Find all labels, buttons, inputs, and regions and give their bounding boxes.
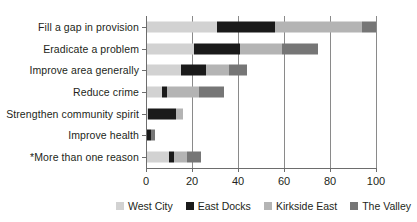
x-axis-label: 0 (143, 175, 149, 187)
plot-area: Fill a gap in provisionEradicate a probl… (146, 16, 376, 168)
chart-legend: West CityEast DocksKirkside EastThe Vall… (0, 200, 411, 212)
legend-label: The Valley (362, 200, 411, 212)
value-axis-line (146, 168, 377, 169)
x-axis-label: 40 (232, 175, 244, 187)
x-axis-label: 20 (186, 175, 198, 187)
bar-segment-kirkside-east (275, 21, 362, 32)
category-label: Improve area generally (29, 64, 139, 76)
chart-row: *More than one reason (146, 146, 376, 168)
legend-item-east-docks[interactable]: East Docks (186, 200, 251, 212)
x-axis-tick (284, 168, 285, 172)
bar-segment-the-valley (229, 65, 247, 76)
bar-segment-west-city (146, 152, 169, 163)
category-axis-line (146, 16, 147, 168)
legend-label: Kirkside East (276, 200, 337, 212)
bar-segment-kirkside-east (176, 108, 183, 119)
chart-row: Fill a gap in provision (146, 16, 376, 38)
legend-item-west-city[interactable]: West City (116, 200, 173, 212)
bar-segment-the-valley (282, 43, 319, 54)
x-axis-tick (146, 168, 147, 172)
bar-segment-east-docks (194, 43, 240, 54)
chart-row: Strengthen community spirit (146, 103, 376, 125)
legend-item-kirkside-east[interactable]: Kirkside East (264, 200, 337, 212)
x-axis-tick (192, 168, 193, 172)
x-axis-tick (238, 168, 239, 172)
category-label: Improve health (68, 129, 139, 141)
bar-segment-west-city (146, 21, 217, 32)
bar-segment-west-city (146, 43, 194, 54)
chart-row: Reduce crime (146, 81, 376, 103)
x-axis-tick (330, 168, 331, 172)
category-label: Strengthen community spirit (6, 108, 139, 120)
chart-row: Improve health (146, 125, 376, 147)
bar-segment-east-docks (217, 21, 275, 32)
category-label: *More than one reason (30, 151, 139, 163)
bar-segment-the-valley (362, 21, 376, 32)
x-axis-label: 100 (367, 175, 385, 187)
bar-segment-east-docks (181, 65, 206, 76)
chart-row: Improve area generally (146, 59, 376, 81)
x-axis-label: 80 (324, 175, 336, 187)
bar-segment-kirkside-east (174, 152, 188, 163)
bar-segment-west-city (146, 65, 181, 76)
stacked-bar-chart: Fill a gap in provisionEradicate a probl… (0, 0, 417, 222)
category-label: Reduce crime (73, 86, 139, 98)
chart-row: Eradicate a problem (146, 38, 376, 60)
bar-segment-west-city (146, 86, 162, 97)
legend-label: West City (128, 200, 173, 212)
bar-segment-the-valley (187, 152, 201, 163)
x-axis-label: 60 (278, 175, 290, 187)
bar-segment-kirkside-east (206, 65, 229, 76)
bar-segment-kirkside-east (240, 43, 281, 54)
legend-label: East Docks (198, 200, 251, 212)
legend-swatch-icon (186, 202, 194, 210)
bar-segment-east-docks (148, 108, 176, 119)
category-label: Fill a gap in provision (38, 21, 139, 33)
legend-swatch-icon (350, 202, 358, 210)
x-axis-tick (376, 168, 377, 172)
gridline (376, 16, 377, 168)
legend-swatch-icon (264, 202, 272, 210)
bar-segment-the-valley (199, 86, 224, 97)
category-label: Eradicate a problem (43, 43, 139, 55)
bar-segment-kirkside-east (167, 86, 199, 97)
legend-swatch-icon (116, 202, 124, 210)
bar-segment-the-valley (151, 130, 156, 141)
legend-item-the-valley[interactable]: The Valley (350, 200, 411, 212)
